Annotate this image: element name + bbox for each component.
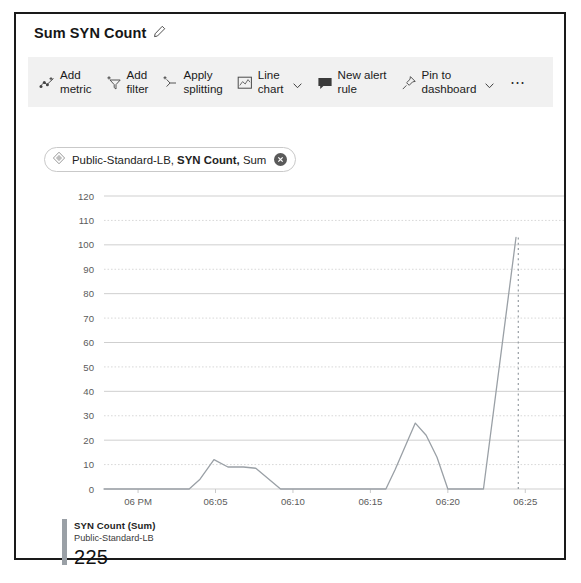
- apply-splitting-label: Apply splitting: [183, 68, 222, 96]
- y-axis-tick-label: 110: [79, 215, 94, 226]
- y-axis-tick-label: 120: [78, 191, 94, 202]
- chip-metric: SYN Count,: [177, 154, 240, 166]
- apply-splitting-button[interactable]: Apply splitting: [155, 57, 229, 107]
- x-axis-tick-label: 06:25: [513, 496, 537, 507]
- y-axis-tick-label: 80: [83, 288, 94, 299]
- chip-resource: Public-Standard-LB,: [72, 154, 174, 166]
- add-metric-label: Add metric: [60, 68, 92, 96]
- y-axis-tick-label: 60: [83, 337, 94, 348]
- y-axis-tick-label: 30: [83, 410, 94, 421]
- new-alert-rule-button[interactable]: New alert rule: [310, 57, 394, 107]
- chart-title-row: Sum SYN Count: [34, 24, 166, 42]
- legend-resource-name: Public-Standard-LB: [74, 532, 155, 544]
- chevron-down-icon[interactable]: [292, 77, 303, 88]
- metric-chip[interactable]: Public-Standard-LB, SYN Count, Sum: [44, 147, 296, 172]
- y-axis-tick-label: 10: [83, 459, 94, 470]
- resource-icon: [52, 151, 66, 169]
- y-axis-tick-label: 40: [83, 386, 94, 397]
- chart-legend[interactable]: SYN Count (Sum) Public-Standard-LB 225: [62, 519, 155, 569]
- chip-aggregation: Sum: [243, 154, 266, 166]
- y-axis-tick-label: 90: [83, 264, 94, 275]
- x-axis-tick-label: 06:20: [436, 496, 460, 507]
- chart-toolbar: Add metric Add filter Apply splitting: [28, 57, 553, 107]
- legend-series-name: SYN Count (Sum): [74, 520, 155, 532]
- apply-splitting-icon: [162, 75, 178, 91]
- metric-chip-label: Public-Standard-LB, SYN Count, Sum: [72, 154, 266, 166]
- y-axis-tick-label: 70: [83, 313, 94, 324]
- x-axis-tick-label: 06 PM: [124, 496, 152, 507]
- new-alert-rule-icon: [317, 75, 333, 91]
- add-metric-button[interactable]: Add metric: [32, 57, 99, 107]
- legend-value: 225: [74, 546, 155, 569]
- series-line: [104, 238, 516, 489]
- x-axis-tick-label: 06:05: [204, 496, 228, 507]
- pin-to-dashboard-button[interactable]: Pin to dashboard: [394, 57, 503, 107]
- add-filter-icon: [106, 75, 122, 91]
- line-chart-icon: [237, 75, 253, 91]
- legend-text-block: SYN Count (Sum) Public-Standard-LB 225: [74, 519, 155, 569]
- page-title: Sum SYN Count: [34, 25, 146, 41]
- y-axis-tick-label: 20: [83, 435, 94, 446]
- x-axis-tick-label: 06:10: [281, 496, 305, 507]
- x-axis-tick-label: 06:15: [358, 496, 382, 507]
- metrics-chart[interactable]: 010203040506070809010011012006 PM06:0506…: [16, 184, 568, 514]
- add-filter-button[interactable]: Add filter: [99, 57, 156, 107]
- new-alert-rule-label: New alert rule: [338, 68, 387, 96]
- y-axis-tick-label: 50: [83, 362, 94, 373]
- more-options-button[interactable]: ⋯: [504, 77, 532, 87]
- pin-to-dashboard-label: Pin to dashboard: [422, 68, 477, 96]
- chart-type-button[interactable]: Line chart: [230, 57, 310, 107]
- pencil-icon[interactable]: [153, 24, 166, 42]
- close-icon[interactable]: [274, 153, 287, 166]
- y-axis-tick-label: 100: [78, 239, 94, 250]
- y-axis-tick-label: 0: [89, 484, 94, 495]
- pin-icon: [401, 75, 417, 91]
- chart-type-label: Line chart: [258, 68, 284, 96]
- metrics-chart-card: Sum SYN Count Add metric: [14, 12, 566, 560]
- add-metric-icon: [39, 75, 55, 91]
- chevron-down-icon-2[interactable]: [484, 77, 495, 88]
- add-filter-label: Add filter: [127, 68, 149, 96]
- chart-svg: 010203040506070809010011012006 PM06:0506…: [16, 184, 568, 514]
- legend-color-swatch: [62, 519, 67, 565]
